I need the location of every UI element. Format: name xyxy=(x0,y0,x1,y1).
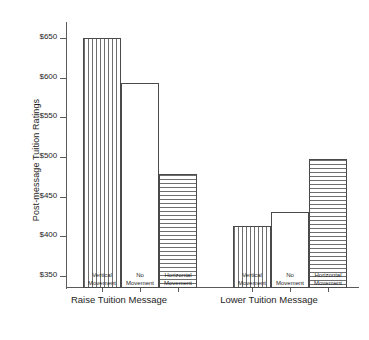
x-tick-raise-horizontal xyxy=(178,288,179,292)
group-label-lower-tuition-message: Lower Tuition Message xyxy=(184,294,354,305)
y-tick-500: $500 xyxy=(60,157,66,158)
y-tick-450: $450 xyxy=(60,197,66,198)
x-tick-lower-no xyxy=(290,288,291,292)
bar-chart: Post-message Tuition Ratings $650 $600 $… xyxy=(0,0,369,340)
y-tick-label-650: $650 xyxy=(40,32,57,41)
x-tick-label-line1: Horizontal xyxy=(298,272,358,280)
x-tick-label-line2: Movement xyxy=(148,280,208,288)
bar-raise-vertical-movement xyxy=(83,38,121,288)
x-tick-label-line1: Horizontal xyxy=(148,272,208,280)
y-tick-350: $350 xyxy=(60,276,66,277)
y-axis-line xyxy=(66,22,67,289)
y-tick-label-500: $500 xyxy=(40,151,57,160)
y-tick-400: $400 xyxy=(60,236,66,237)
group-label-raise-tuition-message: Raise Tuition Message xyxy=(34,294,204,305)
y-tick-550: $550 xyxy=(60,117,66,118)
x-tick-lower-horizontal xyxy=(328,288,329,292)
x-tick-raise-vertical xyxy=(102,288,103,292)
y-tick-label-350: $350 xyxy=(40,270,57,279)
bar-raise-horizontal-movement xyxy=(159,174,197,288)
bar-lower-horizontal-movement xyxy=(309,159,347,289)
plot-area: $650 $600 $550 $500 $450 $400 $350 xyxy=(66,22,359,288)
x-tick-raise-no xyxy=(140,288,141,292)
x-tick-lower-vertical xyxy=(252,288,253,292)
x-tick-label-lower-horizontal: Horizontal Movement xyxy=(298,272,358,287)
y-tick-label-450: $450 xyxy=(40,191,57,200)
y-tick-label-400: $400 xyxy=(40,230,57,239)
y-tick-650: $650 xyxy=(60,38,66,39)
x-tick-label-raise-horizontal: Horizontal Movement xyxy=(148,272,208,287)
x-tick-label-line2: Movement xyxy=(298,280,358,288)
y-tick-label-600: $600 xyxy=(40,72,57,81)
y-axis-title: Post-message Tuition Ratings xyxy=(31,30,41,290)
bar-raise-no-movement xyxy=(121,83,159,288)
y-tick-label-550: $550 xyxy=(40,111,57,120)
y-tick-600: $600 xyxy=(60,78,66,79)
